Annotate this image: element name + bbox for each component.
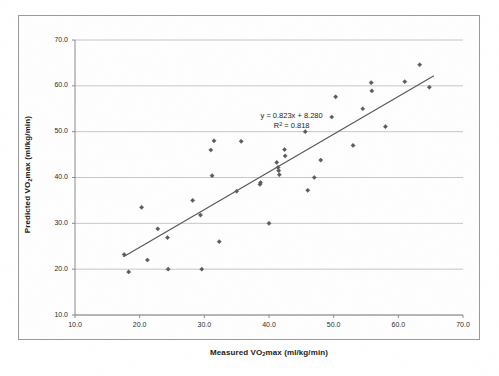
x-tick-label: 50.0 [319,321,349,328]
data-point-group [122,63,431,274]
x-tick-label: 10.0 [60,321,90,328]
data-point [303,130,307,134]
data-point [403,80,407,84]
y-tick-label: 70.0 [42,36,68,43]
data-point [351,143,355,147]
y-tick-label: 40.0 [42,173,68,180]
data-point [217,240,221,244]
x-tick-label: 60.0 [383,321,413,328]
y-axis-title: Predicted VO2max (ml/kg/min) [23,90,32,260]
data-point [334,95,338,99]
data-point [239,139,243,143]
r-squared-label: R2 = 0.818 [232,121,352,130]
y-tick-label: 60.0 [42,81,68,88]
data-point [267,221,271,225]
x-tick-label: 70.0 [448,321,478,328]
data-point [319,158,323,162]
y-tick-label: 30.0 [42,219,68,226]
x-tick-label: 30.0 [189,321,219,328]
data-point [418,63,422,67]
r-squared-exponent: 2 [279,121,282,127]
y-tick-label: 10.0 [42,311,68,318]
x-axis-title-pre: Measured VO [210,348,262,357]
scatter-chart: Predicted VO2max (ml/kg/min) Measured VO… [0,0,499,376]
data-point [275,160,279,164]
x-axis-title-post: max (ml/kg/min) [266,348,328,357]
x-tick-label: 40.0 [254,321,284,328]
data-point [140,205,144,209]
data-point [212,139,216,143]
data-point [145,258,149,262]
data-point [277,173,281,177]
data-point [166,267,170,271]
data-point [200,267,204,271]
y-axis-title-post: max (ml/kg/min) [23,116,32,178]
y-tick-label: 50.0 [42,127,68,134]
plot-canvas [0,0,499,376]
data-point [165,235,169,239]
data-point [198,213,202,217]
regression-equation-label: y = 0.823x + 8.280 [232,111,352,120]
y-axis-title-pre: Predicted VO [23,182,32,233]
data-point [156,227,160,231]
data-point [191,198,195,202]
data-point [209,148,213,152]
data-point [283,154,287,158]
data-point [277,169,281,173]
y-axis-title-sub: 2 [27,178,33,181]
data-point [383,125,387,129]
y-tick-label: 20.0 [42,265,68,272]
data-point [369,81,373,85]
data-point [312,175,316,179]
data-point [361,107,365,111]
data-point [127,270,131,274]
x-axis-title: Measured VO2max (ml/kg/min) [75,348,463,357]
data-point [306,188,310,192]
data-point [370,89,374,93]
x-tick-label: 20.0 [125,321,155,328]
data-point [282,147,286,151]
